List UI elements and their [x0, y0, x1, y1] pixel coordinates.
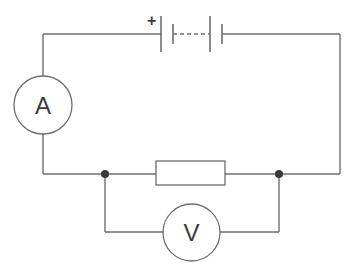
circuit-diagram: + A V	[0, 0, 360, 277]
junction-left	[101, 170, 109, 178]
ammeter: A	[14, 76, 72, 134]
battery-plus-label: +	[147, 12, 156, 29]
battery: +	[147, 12, 222, 52]
ammeter-label: A	[35, 92, 51, 119]
voltmeter: V	[163, 204, 220, 261]
voltmeter-label: V	[183, 219, 199, 246]
junction-right	[275, 170, 283, 178]
resistor	[156, 161, 225, 185]
